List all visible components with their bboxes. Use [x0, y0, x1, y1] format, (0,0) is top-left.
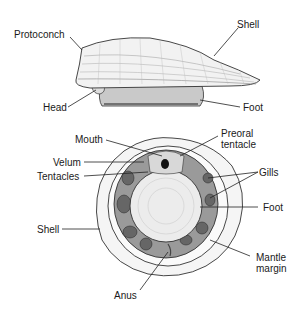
leader-shell-side [214, 28, 238, 56]
side-view-drawing [76, 38, 260, 106]
side-shell-shape [76, 38, 260, 88]
label-protoconch: Protoconch [14, 29, 65, 40]
label-preoral-tentacle-2: tentacle [221, 139, 256, 150]
label-mouth: Mouth [75, 134, 103, 145]
leader-protoconch [70, 37, 82, 50]
label-velum: Velum [53, 157, 81, 168]
label-gills: Gills [259, 167, 278, 178]
side-foot-shape [99, 86, 203, 106]
ventral-foot [130, 170, 202, 242]
label-head: Head [43, 102, 67, 113]
label-tentacles: Tentacles [37, 171, 79, 182]
label-mantle-margin-1: Mantle [256, 252, 286, 263]
label-mantle-margin-2: margin [256, 263, 287, 274]
label-foot-ventral: Foot [263, 202, 283, 213]
limpet-anatomy-diagram: Protoconch Shell Head Foot Mouth Preoral… [0, 0, 304, 319]
ventral-mouth [161, 159, 169, 169]
label-anus: Anus [114, 290, 137, 301]
label-shell-ventral: Shell [37, 224, 59, 235]
leader-head [68, 90, 96, 107]
leader-foot-side [200, 100, 240, 107]
label-foot-side: Foot [243, 102, 263, 113]
label-preoral-tentacle-1: Preoral [221, 128, 253, 139]
label-shell-side: Shell [237, 19, 259, 30]
